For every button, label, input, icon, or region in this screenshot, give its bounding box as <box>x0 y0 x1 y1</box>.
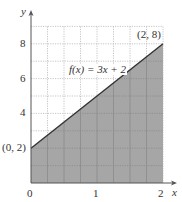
function-label: f(x) = 3x + 2 <box>68 64 127 75</box>
point-label-start: (0, 2) <box>2 142 26 153</box>
x-tick-1: 1 <box>93 188 99 199</box>
y-axis-label: y <box>21 6 26 17</box>
x-tick-2: 2 <box>158 188 164 199</box>
x-axis-label: x <box>172 187 177 198</box>
y-tick-8: 8 <box>20 38 26 49</box>
x-tick-0: 0 <box>27 188 33 199</box>
y-tick-6: 6 <box>20 73 26 84</box>
y-tick-4: 4 <box>20 107 26 118</box>
point-label-end: (2, 8) <box>137 29 161 40</box>
